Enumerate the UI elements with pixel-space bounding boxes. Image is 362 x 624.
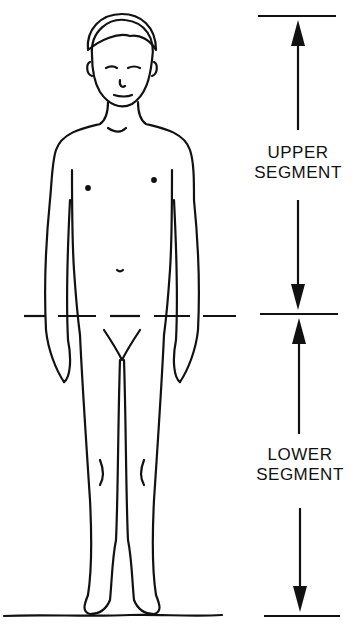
figure-torso xyxy=(50,102,194,335)
arrowhead-up-icon xyxy=(291,20,305,46)
lower-label-line1: LOWER xyxy=(245,445,355,465)
figure-head xyxy=(87,14,157,106)
diagram-canvas xyxy=(0,0,362,624)
lower-segment-label: LOWER SEGMENT xyxy=(245,445,355,485)
figure-legs xyxy=(80,330,164,614)
arrowhead-up-icon xyxy=(292,318,306,344)
ground-line xyxy=(4,615,222,616)
lower-label-line2: SEGMENT xyxy=(245,465,355,485)
arrowhead-down-icon xyxy=(293,586,307,612)
upper-label-line1: UPPER xyxy=(243,143,353,163)
upper-label-line2: SEGMENT xyxy=(243,163,353,183)
figure-arms xyxy=(45,200,199,382)
arrowhead-down-icon xyxy=(291,284,305,310)
upper-segment-label: UPPER SEGMENT xyxy=(243,143,353,183)
